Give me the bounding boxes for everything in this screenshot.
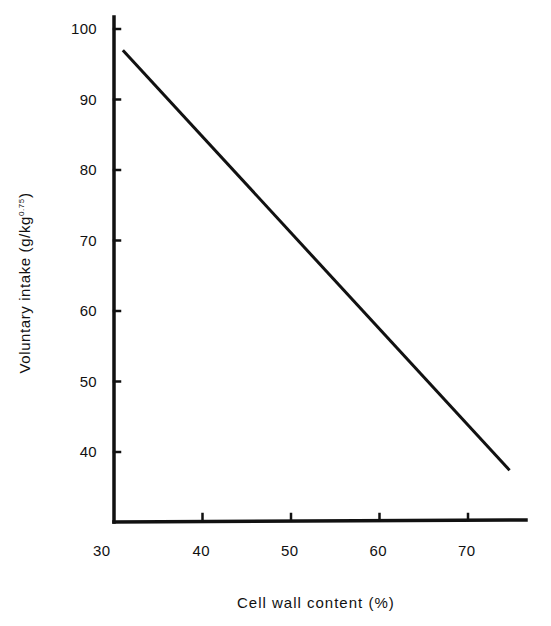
y-tick-label: 70 [80,232,97,249]
x-tick-label: 40 [193,542,210,559]
axes [114,17,526,522]
x-tick-label: 70 [458,542,475,559]
data-series [123,50,510,470]
trend-line [123,50,510,470]
x-axis-line [114,520,526,522]
y-tick-label: 60 [80,302,97,319]
y-tick-label: 100 [71,20,97,37]
x-tick-label: 60 [370,542,387,559]
y-tick-label: 40 [80,443,97,460]
x-tick-label: 30 [93,542,110,559]
y-axis-label: Voluntary intake (g/kg0.75) [16,192,33,373]
y-tick-label: 90 [80,91,97,108]
x-tick-label: 50 [281,542,298,559]
y-tick-label: 80 [80,161,97,178]
x-axis-label: Cell wall content (%) [237,594,395,611]
y-tick-label: 50 [80,373,97,390]
